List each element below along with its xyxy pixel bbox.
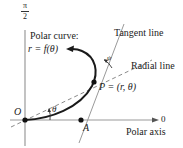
curve-label-line2: r = f(θ) <box>28 43 58 54</box>
radial-line-label: Radial line <box>131 60 175 71</box>
tangent-line-label: Tangent line <box>114 27 164 38</box>
polar-axis-label: Polar axis <box>126 126 166 137</box>
polar-curve <box>25 49 96 120</box>
point-a-label: A <box>83 122 89 133</box>
origin-point <box>22 117 27 122</box>
point-p-label: P = (r, θ) <box>99 81 136 92</box>
polar-axis-zero-label: 0 <box>161 114 166 125</box>
theta-angle-label: θ <box>52 104 56 115</box>
pi-numerator: π <box>20 2 30 10</box>
origin-label: O <box>14 106 21 117</box>
pi-denominator: 2 <box>20 13 30 21</box>
psi-angle-label: ψ <box>107 53 111 64</box>
polar-tangent-diagram: π 2 Polar curve: r = f(θ) Tangent line R… <box>0 0 183 148</box>
curve-arrowhead <box>66 46 74 53</box>
point-p <box>91 79 96 84</box>
axis-label-pi-over-2: π 2 <box>20 2 30 21</box>
curve-label-line1: Polar curve: <box>30 30 79 41</box>
polar-axis-arrow <box>152 118 159 123</box>
